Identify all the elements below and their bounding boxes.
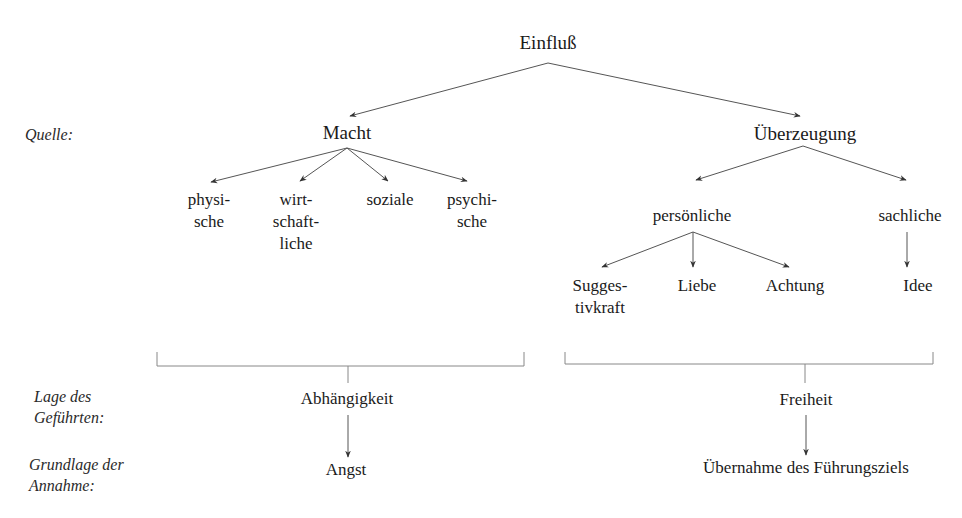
edge-power-psychic [347,148,467,181]
node-freedom: Freiheit [780,389,833,411]
node-factual-idea: Idee [903,275,932,297]
node-fear: Angst [326,459,367,481]
edge-root-to-power [350,63,548,116]
edge-conviction-personal [696,146,803,180]
bracket-conviction [565,352,933,364]
diagram-edges [0,0,962,518]
node-conviction: Überzeugung [754,123,856,145]
edge-root-to-conviction [548,63,800,116]
node-power-psychic: psychi- sche [447,189,497,233]
row-label-source: Quelle: [25,124,73,145]
node-conviction-personal: persönliche [653,205,731,227]
node-goal-adoption: Übernahme des Führungsziels [703,457,909,479]
row-label-acceptance-basis: Grundlage der Annahme: [29,454,124,496]
edge-power-social [347,148,388,181]
edge-personal-suggestion [602,232,693,267]
row-label-follower-position: Lage des Geführten: [34,386,104,428]
node-conviction-factual: sachliche [878,205,941,227]
node-power: Macht [323,122,372,144]
node-power-economic: wirt- schaft- liche [273,189,319,255]
edge-power-economic [300,148,347,181]
node-power-social: soziale [366,189,413,211]
edge-power-physical [211,148,347,182]
node-root: Einfluß [520,32,577,54]
node-personal-respect: Achtung [766,275,825,297]
edge-personal-respect [693,232,789,267]
edge-conviction-factual [803,146,906,180]
node-personal-suggestion: Sugges- tivkraft [573,275,628,319]
bracket-power [157,352,524,366]
node-dependency: Abhängigkeit [301,388,394,410]
node-power-physical: physi- sche [188,189,231,233]
node-personal-love: Liebe [678,275,717,297]
